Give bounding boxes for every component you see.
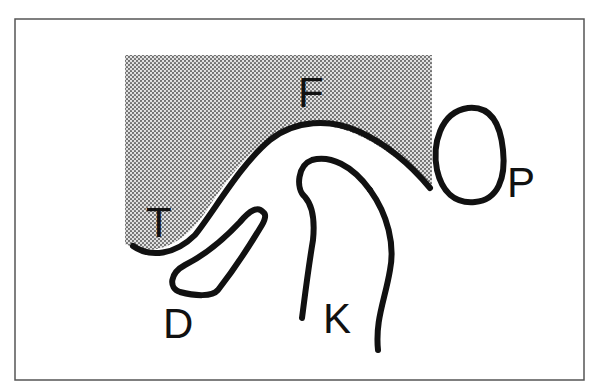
label-k: K xyxy=(323,295,351,342)
label-d: D xyxy=(163,300,193,347)
label-t: T xyxy=(146,199,172,246)
label-p: P xyxy=(507,159,535,206)
diagram-canvas: F T P D K xyxy=(0,0,597,392)
shape-p-oval xyxy=(436,108,504,202)
shape-k-right xyxy=(370,190,392,350)
label-f: F xyxy=(298,69,324,116)
